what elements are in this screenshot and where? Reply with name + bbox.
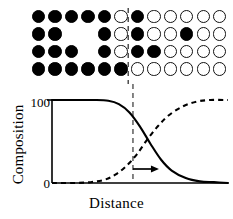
composition-distance-plot: Composition Distance 100 0 — [0, 84, 233, 219]
lattice-interface-overlay — [0, 0, 233, 86]
component-b-curve — [52, 100, 228, 183]
arrow-head — [151, 165, 159, 172]
interdiffusion-figure: Composition Distance 100 0 — [0, 0, 233, 219]
y-axis-tick-label-100: 100 — [22, 95, 50, 111]
interface-shift-arrow — [133, 165, 159, 172]
y-axis-label: Composition — [10, 102, 27, 188]
y-axis-tick-label-0: 0 — [22, 176, 50, 192]
component-a-curve — [52, 100, 228, 183]
atom-lattice — [0, 0, 233, 86]
x-axis-label: Distance — [0, 195, 233, 212]
